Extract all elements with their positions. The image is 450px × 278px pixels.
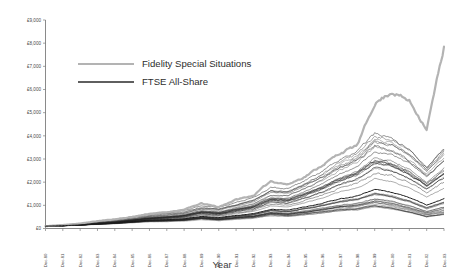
x-tick-label: Dec-99 — [372, 253, 377, 267]
chart-container: £0£1,000£2,000£3,000£4,000£5,000£6,000£7… — [0, 0, 450, 278]
line-chart: £0£1,000£2,000£3,000£4,000£5,000£6,000£7… — [0, 0, 450, 278]
x-tick-label: Dec-87 — [164, 253, 169, 267]
y-tick-label: £5,000 — [27, 110, 41, 115]
y-tick-label: £7,000 — [27, 64, 41, 69]
x-tick-label: Dec-01 — [407, 253, 412, 267]
x-tick-label: Dec-83 — [95, 253, 100, 267]
legend-label: Fidelity Special Situations — [142, 58, 252, 69]
y-tick-label: £8,000 — [27, 41, 41, 46]
legend-label: FTSE All-Share — [142, 76, 208, 87]
x-tick-label: Dec-92 — [251, 253, 256, 267]
chart-background — [0, 0, 450, 278]
x-tick-label: Dec-86 — [147, 253, 152, 267]
x-tick-label: Dec-82 — [78, 253, 83, 267]
x-tick-label: Dec-03 — [442, 253, 447, 267]
x-tick-label: Dec-84 — [112, 253, 117, 267]
x-tick-label: Dec-98 — [355, 253, 360, 267]
x-tick-label: Dec-00 — [390, 253, 395, 267]
y-tick-label: £6,000 — [27, 87, 41, 92]
y-tick-label: £4,000 — [27, 134, 41, 139]
y-tick-label: £9,000 — [27, 18, 41, 23]
x-tick-label: Dec-85 — [130, 253, 135, 267]
x-tick-label: Dec-02 — [424, 253, 429, 267]
x-tick-label: Dec-93 — [268, 253, 273, 267]
x-tick-label: Dec-89 — [199, 253, 204, 267]
x-axis-title: Year — [212, 259, 231, 270]
y-tick-label: £0 — [36, 226, 42, 231]
y-tick-label: £1,000 — [27, 203, 41, 208]
x-tick-label: Dec-95 — [303, 253, 308, 267]
x-tick-label: Dec-97 — [338, 253, 343, 267]
x-tick-label: Dec-94 — [286, 253, 291, 267]
y-tick-label: £2,000 — [27, 180, 41, 185]
y-tick-label: £3,000 — [27, 157, 41, 162]
x-tick-label: Dec-80 — [43, 253, 48, 267]
x-tick-label: Dec-88 — [182, 253, 187, 267]
x-tick-label: Dec-91 — [234, 253, 239, 267]
x-tick-label: Dec-96 — [320, 253, 325, 267]
x-tick-label: Dec-81 — [60, 253, 65, 267]
